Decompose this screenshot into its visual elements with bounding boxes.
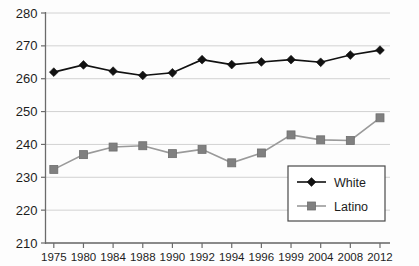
data-point-marker [109,67,118,76]
y-axis-labels-group: 210220230240250260270280 [16,6,38,251]
data-point-marker [287,55,296,64]
x-axis-tick-label: 2012 [367,251,393,263]
data-point-marker [376,114,384,122]
x-axis-tick-label: 1990 [160,251,186,263]
x-axis-tick-label: 1999 [278,251,304,263]
data-point-marker [50,165,58,173]
y-axis-tick-label: 240 [16,137,38,152]
data-point-marker [198,145,206,153]
x-axis-tick-label: 1996 [249,251,275,263]
x-axis-tick-label: 1994 [219,251,245,263]
chart-legend: WhiteLatino [288,166,385,221]
data-point-marker [228,159,236,167]
x-axis-tick-label: 1984 [100,251,126,263]
data-point-marker [346,51,355,60]
data-point-marker [168,68,177,77]
data-point-marker [376,46,385,55]
legend-entry-label: White [334,176,366,190]
series-latino [50,114,384,174]
data-point-marker [49,68,58,77]
data-point-marker [168,150,176,158]
data-point-marker [257,149,265,157]
y-axis-tick-label: 210 [16,236,38,251]
x-axis-tick-label: 2008 [338,251,364,263]
x-axis-tick-label: 1988 [130,251,156,263]
legend-square-icon [308,202,316,210]
series-line-white [54,50,380,75]
x-axis-tick-label: 1980 [71,251,97,263]
series-line-latino [54,118,380,170]
y-axis-ticks-group [41,13,46,243]
x-axis-tick-label: 2004 [308,251,334,263]
x-axis-ticks-group [54,243,380,248]
legend-entry-label: Latino [334,200,368,214]
chart-canvas: 210220230240250260270280 197519801984198… [0,0,419,266]
y-axis-tick-label: 220 [16,203,38,218]
data-point-marker [109,143,117,151]
y-axis-tick-label: 260 [16,71,38,86]
data-point-marker [287,131,295,139]
data-point-marker [227,60,236,69]
data-point-marker [316,58,325,67]
data-point-marker [257,58,266,67]
x-axis-tick-label: 1975 [41,251,67,263]
data-point-marker [346,136,354,144]
data-point-marker [139,142,147,150]
y-axis-tick-label: 230 [16,170,38,185]
data-point-marker [317,136,325,144]
y-axis-tick-label: 270 [16,38,38,53]
y-axis-tick-label: 250 [16,104,38,119]
y-axis-tick-label: 280 [16,6,38,21]
x-axis-labels-group: 1975198019841988199019921994199619992004… [41,251,393,263]
data-point-marker [198,55,207,64]
series-white [49,46,384,80]
line-chart: 210220230240250260270280 197519801984198… [0,0,419,266]
data-point-marker [79,61,88,70]
data-point-marker [79,151,87,159]
x-axis-tick-label: 1992 [189,251,215,263]
